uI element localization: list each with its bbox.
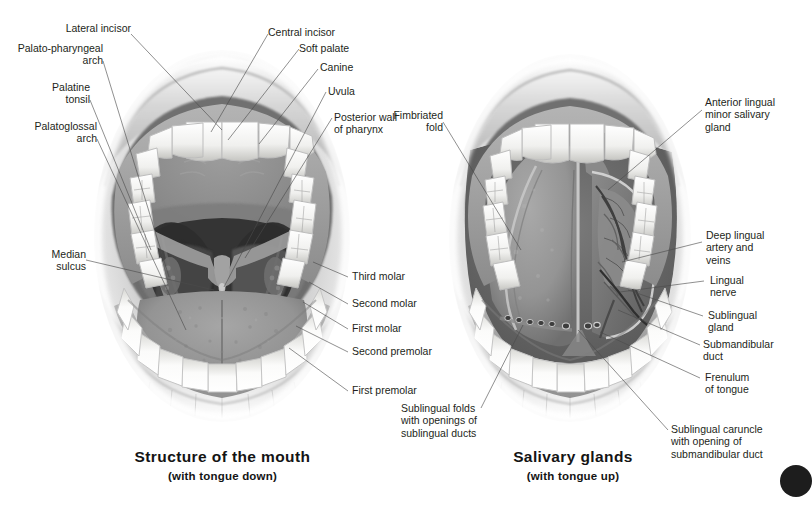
salivary-panel-title: Salivary glands (with tongue up) [464,448,682,482]
label-sublingual-caruncle: Sublingual caruncle with opening of subm… [671,423,763,460]
mouth-title-text: Structure of the mouth [100,448,345,466]
mouth-illustration [94,50,350,422]
label-median-sulcus: Median sulcus [0,248,86,273]
salivary-subtitle-text: (with tongue up) [464,470,682,482]
label-first-premolar: First premolar [352,384,417,396]
label-palato-pharyngeal-arch: Palato-pharyngeal arch [0,42,103,67]
label-anterior-lingual-minor-salivary-gland: Anterior lingual minor salivary gland [705,96,775,133]
label-sublingual-gland: Sublingual gland [708,309,757,334]
label-canine: Canine [320,61,353,73]
label-uvula: Uvula [328,85,355,97]
label-sublingual-folds: Sublingual folds with openings of sublin… [401,402,477,439]
label-palatoglossal-arch: Palatoglossal arch [0,120,97,145]
label-deep-lingual-artery-and-veins: Deep lingual artery and veins [706,229,764,266]
salivary-title-text: Salivary glands [464,448,682,466]
label-frenulum-of-tongue: Frenulum of tongue [705,371,749,396]
page-marker [780,465,812,497]
label-lingual-nerve: Lingual nerve [710,274,744,299]
mouth-subtitle-text: (with tongue down) [100,470,345,482]
salivary-glands-illustration [449,54,691,422]
label-first-molar: First molar [352,322,402,334]
mouth-panel-title: Structure of the mouth (with tongue down… [100,448,345,482]
label-palatine-tonsil: Palatine tonsil [0,81,90,106]
label-second-premolar: Second premolar [352,345,432,357]
label-third-molar: Third molar [352,270,405,282]
label-central-incisor: Central incisor [268,26,335,38]
label-submandibular-duct: Submandibular duct [703,338,774,363]
label-soft-palate: Soft palate [299,42,349,54]
label-second-molar: Second molar [352,297,417,309]
label-fimbriated-fold: Fimbriated fold [330,109,443,134]
label-lateral-incisor: Lateral incisor [0,22,131,34]
